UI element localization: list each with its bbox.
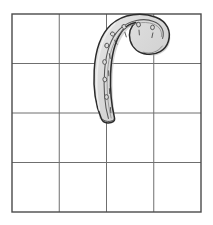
nail-hole (104, 43, 109, 48)
tick-dash (110, 108, 111, 113)
nail-hole (103, 77, 107, 82)
nail-hole (104, 94, 108, 99)
figure-svg (0, 0, 213, 225)
nail-hole (136, 22, 141, 27)
drawing-canvas: Horseshoe drawing on grid Horseshoe (0, 0, 213, 225)
nail-hole (150, 25, 154, 30)
nail-hole (103, 59, 107, 64)
